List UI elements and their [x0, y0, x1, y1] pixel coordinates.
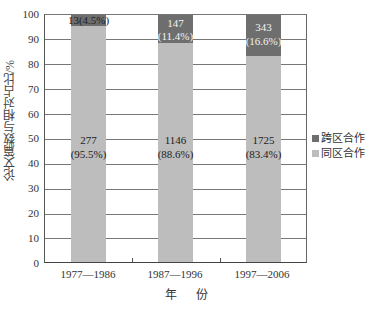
bar-value-label: 343 [234, 21, 294, 34]
legend: 跨区合作 同区合作 [312, 131, 365, 161]
bar-pct-label: (95.5%) [59, 148, 119, 161]
y-tick-label: 100 [9, 8, 39, 20]
bar-pct-label: (83.4%) [234, 148, 294, 161]
bar-segment-cross-region: 343 (16.6%) [246, 15, 281, 56]
x-tick-label: 1977—1986 [48, 268, 128, 280]
x-tick-mark [220, 258, 221, 262]
stacked-bar-chart: 论文篇数与相对占比/% 100 90 80 70 60 50 40 30 20 … [0, 0, 375, 309]
y-tick-label: 60 [9, 108, 39, 120]
bar-segment-same-region: 1146 (88.6%) [158, 43, 193, 262]
bar-value-label: 147 [146, 17, 206, 30]
bar-1987-1996: 1146 (88.6%) 147 (11.4%) [158, 15, 193, 262]
y-tick-label: 80 [9, 58, 39, 70]
y-tick-label: 40 [9, 157, 39, 169]
y-tick-label: 90 [9, 33, 39, 45]
bar-segment-same-region: 277 (95.5%) [71, 26, 106, 262]
bar-value-label: 1146 [146, 134, 206, 147]
bar-pct-label: (11.4%) [146, 30, 206, 43]
plot-area: 277 (95.5%) 13(4.5%) 1146 (88.6%) 147 (1… [44, 14, 307, 263]
x-tick-label: 1987—1996 [135, 268, 215, 280]
y-tick-label: 20 [9, 207, 39, 219]
legend-swatch-icon [312, 135, 319, 142]
legend-item-same-region: 同区合作 [312, 146, 365, 161]
y-tick-label: 50 [9, 132, 39, 144]
legend-label: 同区合作 [321, 146, 365, 161]
x-axis-title: 年 份 [155, 285, 225, 303]
y-tick-label: 0 [9, 257, 39, 269]
y-tick-label: 30 [9, 182, 39, 194]
x-tick-label: 1997—2006 [222, 268, 302, 280]
y-tick-label: 70 [9, 83, 39, 95]
bar-1997-2006: 1725 (83.4%) 343 (16.6%) [246, 15, 281, 262]
legend-item-cross-region: 跨区合作 [312, 131, 365, 146]
bar-pct-label: (88.6%) [146, 148, 206, 161]
legend-swatch-icon [312, 150, 319, 157]
x-tick-mark [132, 258, 133, 262]
legend-label: 跨区合作 [321, 131, 365, 146]
bar-pct-label: (16.6%) [234, 35, 294, 48]
bar-1977-1986: 277 (95.5%) 13(4.5%) [71, 15, 106, 262]
y-tick-label: 10 [9, 232, 39, 244]
bar-segment-cross-region: 13(4.5%) [71, 15, 106, 26]
bar-segment-cross-region: 147 (11.4%) [158, 15, 193, 43]
bar-segment-same-region: 1725 (83.4%) [246, 56, 281, 262]
bar-value-label: 1725 [234, 134, 294, 147]
bar-value-label: 277 [59, 134, 119, 147]
bar-value-label: 13(4.5%) [59, 14, 119, 27]
